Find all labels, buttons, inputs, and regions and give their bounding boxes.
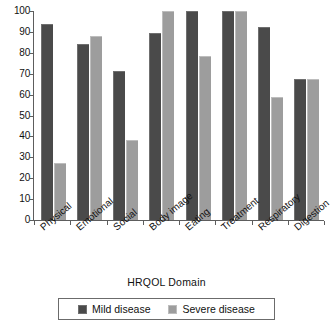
y-tick-mark (29, 220, 33, 221)
legend-item-severe: Severe disease (168, 303, 254, 315)
bar-digestion-severe (307, 79, 319, 220)
bar-body-image-mild (149, 33, 161, 220)
y-tick-label: 20 (2, 173, 30, 183)
y-tick-label: 90 (2, 27, 30, 37)
y-tick-label: 50 (2, 111, 30, 121)
y-tick-mark (29, 199, 33, 200)
bar-respiratory-mild (258, 27, 270, 220)
y-tick-mark (29, 95, 33, 96)
bar-emotional-mild (77, 44, 89, 220)
bar-eating-mild (186, 11, 198, 220)
hrqol-bar-chart: 0102030405060708090100 PhysicalEmotional… (0, 0, 333, 326)
y-tick-mark (29, 157, 33, 158)
y-axis-tick-labels: 0102030405060708090100 (0, 0, 30, 232)
legend-item-mild: Mild disease (78, 303, 150, 315)
legend-label-mild: Mild disease (92, 303, 150, 315)
y-tick-label: 10 (2, 194, 30, 204)
x-axis-title: HRQOL Domain (0, 276, 333, 288)
y-tick-label: 80 (2, 48, 30, 58)
y-tick-mark (29, 53, 33, 54)
y-tick-label: 100 (2, 6, 30, 16)
bars-layer (34, 11, 324, 220)
plot-area: 0102030405060708090100 (0, 0, 333, 232)
chart-legend: Mild disease Severe disease (58, 298, 275, 320)
bar-treatment-severe (235, 11, 247, 220)
y-tick-mark (29, 116, 33, 117)
y-tick-label: 70 (2, 69, 30, 79)
y-tick-label: 60 (2, 90, 30, 100)
y-tick-mark (29, 136, 33, 137)
y-tick-label: 30 (2, 152, 30, 162)
bar-social-mild (113, 71, 125, 220)
y-tick-mark (29, 178, 33, 179)
bar-eating-severe (199, 56, 211, 220)
bar-physical-mild (41, 24, 53, 220)
bar-body-image-severe (162, 11, 174, 220)
legend-label-severe: Severe disease (182, 303, 254, 315)
x-axis-category-labels: PhysicalEmotionalSocialBody imageEatingT… (0, 224, 333, 276)
y-tick-mark (29, 32, 33, 33)
y-tick-mark (29, 74, 33, 75)
bar-treatment-mild (222, 11, 234, 220)
y-tick-mark (29, 11, 33, 12)
legend-swatch-severe-icon (168, 305, 177, 314)
y-tick-label: 40 (2, 131, 30, 141)
legend-swatch-mild-icon (78, 305, 87, 314)
bar-emotional-severe (90, 36, 102, 220)
